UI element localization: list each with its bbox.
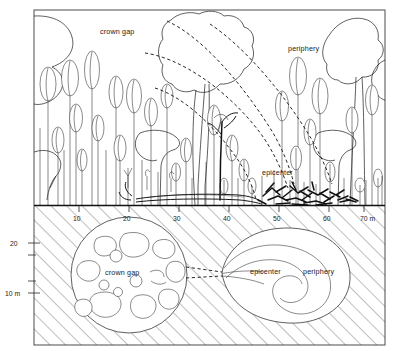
sapling — [239, 159, 249, 205]
label-periphery-plan: periphery — [303, 267, 335, 276]
label-crown-gap-profile: crown gap — [100, 27, 135, 36]
sapling — [366, 85, 379, 205]
sapling — [145, 98, 158, 205]
treefall-gap-diagram: crown gap periphery epicenter crown gap … — [0, 0, 398, 351]
fallen-tree — [119, 113, 262, 204]
sapling — [52, 127, 64, 205]
x-tick-label-30: 30 — [173, 215, 181, 222]
understory-sapling-group — [40, 51, 383, 205]
x-tick-label-40: 40 — [223, 215, 231, 222]
x-tick-label-20: 20 — [123, 215, 131, 222]
label-periphery-profile: periphery — [288, 44, 320, 53]
sapling — [77, 149, 87, 205]
sapling — [208, 105, 221, 205]
sapling — [346, 107, 358, 205]
label-crown-gap-plan: crown gap — [105, 268, 140, 277]
x-tick-label-60: 60 — [323, 215, 331, 222]
x-tick-label-50: 50 — [273, 215, 281, 222]
y-tick-label-20: 20 — [10, 240, 18, 247]
y-tick-label-10m: 10 m — [5, 290, 20, 297]
sapling — [374, 169, 383, 205]
label-epicenter-profile: epicenter — [262, 168, 293, 177]
debris-field — [258, 182, 358, 205]
figure-root: crown gap periphery epicenter crown gap … — [0, 0, 398, 351]
sapling — [220, 178, 228, 205]
sapling — [127, 79, 142, 205]
label-epicenter-plan: epicenter — [250, 267, 281, 276]
x-tick-label-10: 10 — [73, 215, 81, 222]
sapling — [92, 115, 104, 205]
sapling — [304, 119, 316, 205]
forest-profile-layer — [34, 11, 385, 205]
x-tick-label-70m: 70 m — [360, 215, 375, 222]
